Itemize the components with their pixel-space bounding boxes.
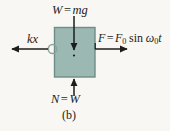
normal-force-label: N=W <box>51 93 80 106</box>
driving-force-label: F=F0sinω0t <box>98 32 162 46</box>
weight-label: W=mg <box>52 4 88 17</box>
spring-force-label: kx <box>27 33 38 46</box>
figure-caption: (b) <box>62 109 76 121</box>
weight-expression: mg <box>72 3 87 17</box>
free-body-diagram: W=mg kx F=F0sinω0t N=W (b) <box>0 0 170 131</box>
diagram-vector-layer <box>0 0 170 131</box>
angular-frequency-symbol: ω <box>143 31 154 45</box>
force-equals: = <box>105 31 115 45</box>
displacement-symbol: x <box>33 32 39 46</box>
center-of-mass-dot <box>73 54 75 56</box>
normal-equals: = <box>59 92 69 106</box>
time-symbol: t <box>158 31 161 45</box>
weight-equals: = <box>62 3 72 17</box>
normal-weight-symbol: W <box>69 92 79 106</box>
sine-function: sin <box>126 31 143 45</box>
weight-symbol: W <box>52 3 62 17</box>
